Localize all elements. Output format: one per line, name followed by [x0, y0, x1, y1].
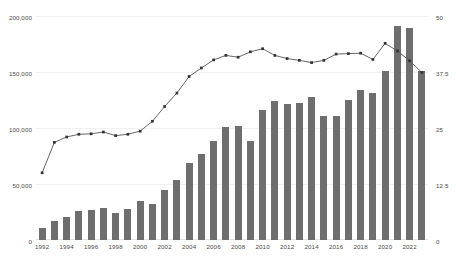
x-axis-tick-label: 2002 — [158, 244, 172, 250]
line-marker — [188, 75, 191, 78]
line-marker — [65, 136, 68, 139]
y-axis-right-tick-4: 50 — [436, 15, 443, 21]
y-axis-left-tick-label: 100,000 — [9, 126, 32, 133]
x-axis-tick-label: 2016 — [329, 244, 343, 250]
x-axis-tick-label: 1996 — [84, 244, 98, 250]
y-axis-left-tick-label: 0 — [28, 238, 32, 245]
y-axis-right-tick-3: 37.5 — [436, 71, 448, 77]
line-marker — [396, 50, 399, 53]
x-axis-tick-label: 2006 — [207, 244, 221, 250]
y-axis-right-tick-label: 37.5 — [436, 70, 448, 77]
line-marker — [90, 132, 93, 135]
y-axis-right-tick-2: 25 — [436, 127, 443, 133]
y-axis-right-tick-label: 50 — [436, 14, 443, 21]
x-axis-tick-label: 2000 — [133, 244, 147, 250]
line-marker — [359, 52, 362, 55]
y-axis-left-tick-0: 0 — [28, 239, 32, 245]
line-marker — [249, 50, 252, 53]
line-marker — [127, 133, 130, 136]
x-axis-tick-label: 2008 — [231, 244, 245, 250]
y-axis-left-tick-2: 100,000 — [9, 127, 32, 133]
y-axis-right-tick-0: 0 — [436, 239, 440, 245]
line-marker — [323, 59, 326, 62]
y-axis-left-tick-label: 200,000 — [9, 14, 32, 21]
line-marker — [286, 57, 289, 60]
line-marker — [212, 59, 215, 62]
line-marker — [372, 58, 375, 61]
line-marker — [53, 141, 56, 144]
line-marker — [261, 47, 264, 50]
line-marker — [274, 54, 277, 57]
line-marker — [408, 59, 411, 62]
line-marker — [176, 92, 179, 95]
line-marker — [78, 133, 81, 136]
y-axis-left-tick-4: 200,000 — [9, 15, 32, 21]
chart-container: 0 50,000 100,000 150,000 200,000 0 12.5 … — [0, 0, 468, 263]
line-marker — [163, 105, 166, 108]
line-marker — [151, 120, 154, 123]
x-axis-tick-label: 1998 — [109, 244, 123, 250]
line-marker — [347, 52, 350, 55]
x-axis-tick-label: 2010 — [256, 244, 270, 250]
y-axis-left-tick-label: 150,000 — [9, 70, 32, 77]
y-axis-right-tick-1: 12.5 — [436, 183, 448, 189]
x-axis-tick-label: 2004 — [182, 244, 196, 250]
line-marker — [114, 134, 117, 137]
line-marker — [200, 67, 203, 70]
x-axis-tick-label: 1994 — [60, 244, 74, 250]
x-axis-tick-label: 2020 — [378, 244, 392, 250]
line-marker — [102, 131, 105, 134]
y-axis-left-tick-label: 50,000 — [12, 182, 32, 189]
line-path — [42, 43, 422, 172]
line-marker — [421, 71, 424, 74]
line-marker — [139, 130, 142, 133]
y-axis-right-tick-label: 25 — [436, 126, 443, 133]
x-axis-tick-label: 2018 — [354, 244, 368, 250]
line-marker — [237, 56, 240, 59]
y-axis-left-tick-1: 50,000 — [12, 183, 32, 189]
y-axis-right-tick-label: 12.5 — [436, 182, 448, 189]
line-marker — [225, 54, 228, 57]
x-axis-tick-label: 2014 — [305, 244, 319, 250]
y-axis-left-tick-3: 150,000 — [9, 71, 32, 77]
y-axis-right-tick-label: 0 — [436, 238, 440, 245]
line-series — [36, 16, 428, 240]
x-axis: 1992199419961998200020022004200620082010… — [36, 244, 428, 258]
line-marker — [41, 171, 44, 174]
plot-area — [36, 16, 428, 240]
line-marker — [335, 53, 338, 56]
line-marker — [310, 61, 313, 64]
x-axis-tick-label: 1992 — [35, 244, 49, 250]
x-axis-tick-label: 2022 — [403, 244, 417, 250]
line-marker — [298, 59, 301, 62]
line-marker — [384, 42, 387, 45]
x-axis-tick-label: 2012 — [280, 244, 294, 250]
